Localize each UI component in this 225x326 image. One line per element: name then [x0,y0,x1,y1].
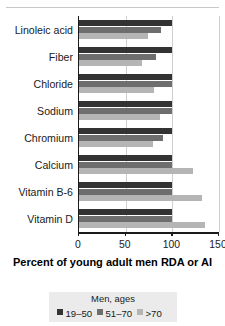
bar [79,114,160,120]
bar [79,162,172,168]
legend-swatch-icon [57,309,63,315]
bar [79,54,156,60]
legend-swatch-icon [137,309,143,315]
bar [79,101,172,107]
x-axis-line [78,232,219,234]
bar [79,141,153,147]
legend-item[interactable]: 51–70 [97,306,132,319]
bar [79,182,172,188]
x-axis-tick-labels: 050100150 [78,238,225,252]
bar [79,87,154,93]
bar [79,20,172,26]
bar [79,189,172,195]
table-caption-text: TABLE 13-1 The Intakes and Needs of Olde… [6,0,219,3]
legend-title: Men, ages [49,293,177,305]
y-axis-category-label: Vitamin D [27,212,73,226]
x-axis-tick-label: 0 [75,238,81,251]
x-axis-tick [125,232,126,236]
gridline [219,16,220,232]
bar [79,81,172,87]
table-caption: TABLE 13-1 The Intakes and Needs of Olde… [6,0,219,7]
legend-item-label: 19–50 [66,307,93,320]
bar [79,168,193,174]
bar [79,135,163,141]
x-axis-tick-label: 150 [209,238,225,251]
bar [79,222,205,228]
y-axis-category-labels: Linoleic acidFiberChlorideSodiumChromium… [0,16,76,232]
y-axis-category-label: Chloride [34,77,73,91]
bar [79,33,148,39]
x-axis-tick-label: 100 [163,238,180,251]
legend: Men, ages 19–5051–70>70 [49,292,177,322]
bar [79,47,172,53]
y-axis-category-label: Fiber [49,50,73,64]
bar [79,128,172,134]
bar [79,195,202,201]
x-axis-title: Percent of young adult men RDA or AI [10,256,215,269]
legend-items: 19–5051–70>70 [49,306,177,320]
bar [79,108,172,114]
legend-item-label: >70 [146,307,162,320]
y-axis-category-label: Sodium [37,104,73,118]
legend-item[interactable]: >70 [137,306,162,319]
y-axis-category-label: Chromium [24,131,73,145]
bar [79,209,172,215]
bar [79,216,172,222]
x-axis-tick-label: 50 [119,238,131,251]
x-axis-tick [78,232,79,236]
bar [79,60,142,66]
caption-divider [6,7,219,8]
plot-area: Linoleic acidFiberChlorideSodiumChromium… [0,16,225,238]
y-axis-category-label: Linoleic acid [15,23,73,37]
y-axis-category-label: Calcium [35,158,73,172]
bar [79,74,172,80]
axes [78,16,218,232]
bar [79,27,161,33]
legend-swatch-icon [97,309,103,315]
y-axis-category-label: Vitamin B-6 [18,185,73,199]
x-axis-tick [171,232,172,236]
bar [79,155,172,161]
x-axis-tick [218,232,219,236]
plot-canvas [78,16,218,232]
legend-item-label: 51–70 [106,307,133,320]
chart-figure: TABLE 13-1 The Intakes and Needs of Olde… [0,0,225,326]
legend-item[interactable]: 19–50 [57,306,92,319]
